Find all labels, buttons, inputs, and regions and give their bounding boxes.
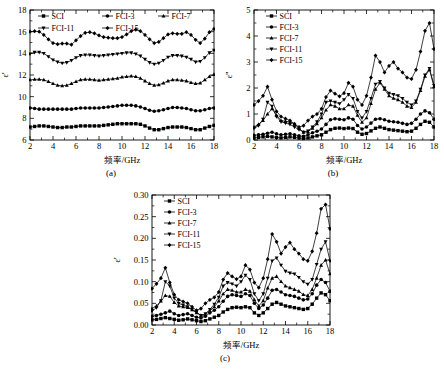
svg-text:10: 10 xyxy=(340,141,349,151)
svg-text:12: 12 xyxy=(362,141,371,151)
svg-text:18: 18 xyxy=(326,326,335,336)
y-axis-label: ε'' xyxy=(224,71,234,78)
legend-label-SCI: SCI xyxy=(280,12,293,21)
series-FCI-3 xyxy=(28,104,216,114)
legend: SCIFCI-3FCI-7FCI-11FCI-15 xyxy=(164,197,201,250)
svg-text:0.05: 0.05 xyxy=(134,298,149,308)
x-axis-label: 频率/GHz xyxy=(104,155,141,165)
legend-label-SCI: SCI xyxy=(52,12,65,21)
svg-text:0: 0 xyxy=(246,135,250,145)
svg-text:6: 6 xyxy=(22,135,26,145)
panel-a-caption: (a) xyxy=(0,168,222,178)
chart-panel-b: 24681012141618012345频率/GHzε''SCIFCI-3FCI… xyxy=(222,0,444,185)
y-axis-label: ε' xyxy=(0,72,10,78)
legend-label-FCI-7: FCI-7 xyxy=(280,34,299,43)
svg-text:16: 16 xyxy=(187,141,196,151)
svg-text:0.15: 0.15 xyxy=(134,255,149,265)
svg-text:1: 1 xyxy=(246,109,250,119)
svg-text:0.20: 0.20 xyxy=(134,233,149,243)
svg-text:4: 4 xyxy=(172,326,177,336)
legend-label-SCI: SCI xyxy=(178,197,191,206)
series-FCI-11 xyxy=(28,49,216,67)
svg-text:6: 6 xyxy=(74,141,78,151)
svg-text:14: 14 xyxy=(164,141,173,151)
svg-text:4: 4 xyxy=(274,141,279,151)
svg-text:5: 5 xyxy=(246,5,250,15)
legend-label-FCI-3: FCI-3 xyxy=(178,208,197,217)
legend-label-FCI-11: FCI-11 xyxy=(280,45,303,54)
svg-text:8: 8 xyxy=(217,326,221,336)
panel-c-caption: (c) xyxy=(110,353,340,363)
y-axis-label: ε' xyxy=(112,257,122,263)
svg-text:18: 18 xyxy=(18,5,27,15)
svg-text:18: 18 xyxy=(430,141,439,151)
series-SCI xyxy=(28,122,215,131)
svg-text:2: 2 xyxy=(150,326,154,336)
x-axis-label: 频率/GHz xyxy=(326,155,363,165)
legend-label-FCI-15: FCI-15 xyxy=(178,241,201,250)
series-FCI-7 xyxy=(28,72,216,87)
svg-text:12: 12 xyxy=(18,70,27,80)
svg-text:10: 10 xyxy=(237,326,246,336)
svg-text:6: 6 xyxy=(297,141,301,151)
plot-svg-a: 24681012141618681012141618频率/GHzε'SCIFCI… xyxy=(0,0,222,185)
svg-text:12: 12 xyxy=(141,141,150,151)
legend-label-FCI-3: FCI-3 xyxy=(116,12,135,21)
svg-text:14: 14 xyxy=(385,141,394,151)
plot-svg-b: 24681012141618012345频率/GHzε''SCIFCI-3FCI… xyxy=(222,0,444,185)
svg-text:0.00: 0.00 xyxy=(134,320,149,330)
svg-text:2: 2 xyxy=(246,83,250,93)
chart-panel-c: 246810121416180.000.050.100.150.200.250.… xyxy=(110,185,340,370)
svg-text:6: 6 xyxy=(194,326,198,336)
svg-text:4: 4 xyxy=(246,31,251,41)
chart-panel-a: 24681012141618681012141618频率/GHzε'SCIFCI… xyxy=(0,0,222,185)
svg-text:10: 10 xyxy=(118,141,127,151)
legend-label-FCI-15: FCI-15 xyxy=(280,56,303,65)
svg-text:10: 10 xyxy=(18,92,27,102)
svg-text:14: 14 xyxy=(281,326,290,336)
series-FCI-3 xyxy=(252,109,436,138)
x-axis-label: 频率/GHz xyxy=(223,340,260,350)
svg-text:8: 8 xyxy=(22,113,26,123)
legend-label-FCI-3: FCI-3 xyxy=(280,23,299,32)
svg-text:8: 8 xyxy=(97,141,101,151)
legend-label-FCI-11: FCI-11 xyxy=(52,24,75,33)
svg-text:8: 8 xyxy=(319,141,323,151)
legend: SCIFCI-3FCI-7FCI-11FCI-15 xyxy=(266,12,303,65)
legend: SCIFCI-3FCI-7FCI-11FCI-15 xyxy=(38,12,191,33)
panel-b-caption: (b) xyxy=(222,168,444,178)
svg-text:0.30: 0.30 xyxy=(134,190,149,200)
svg-text:3: 3 xyxy=(246,57,250,67)
svg-text:16: 16 xyxy=(304,326,313,336)
legend-label-FCI-7: FCI-7 xyxy=(178,219,197,228)
svg-text:16: 16 xyxy=(407,141,416,151)
svg-text:4: 4 xyxy=(51,141,56,151)
svg-text:16: 16 xyxy=(18,27,27,37)
legend-label-FCI-7: FCI-7 xyxy=(172,12,191,21)
svg-text:0.25: 0.25 xyxy=(134,212,149,222)
plot-svg-c: 246810121416180.000.050.100.150.200.250.… xyxy=(110,185,340,370)
svg-text:12: 12 xyxy=(259,326,268,336)
svg-text:14: 14 xyxy=(18,48,27,58)
svg-text:2: 2 xyxy=(28,141,32,151)
svg-text:0.10: 0.10 xyxy=(134,277,149,287)
svg-text:2: 2 xyxy=(252,141,256,151)
legend-label-FCI-15: FCI-15 xyxy=(116,24,139,33)
svg-text:18: 18 xyxy=(210,141,219,151)
legend-label-FCI-11: FCI-11 xyxy=(178,230,201,239)
